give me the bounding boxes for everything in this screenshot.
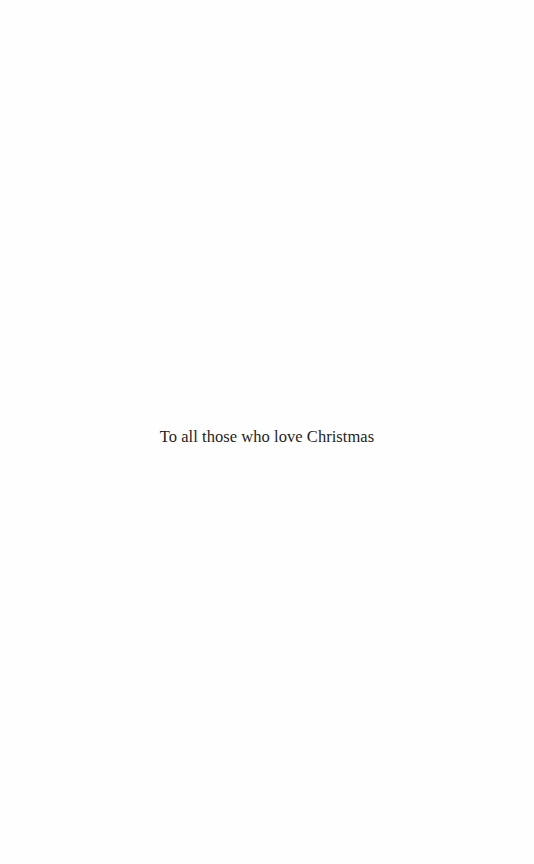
dedication-text: To all those who love Christmas (0, 427, 534, 447)
book-page: To all those who love Christmas (0, 0, 534, 864)
